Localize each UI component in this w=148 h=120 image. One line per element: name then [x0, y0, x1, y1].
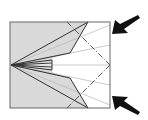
top-arrow-icon	[112, 15, 140, 34]
bottom-arrow-icon	[112, 96, 140, 115]
origami-diagram	[0, 0, 148, 120]
